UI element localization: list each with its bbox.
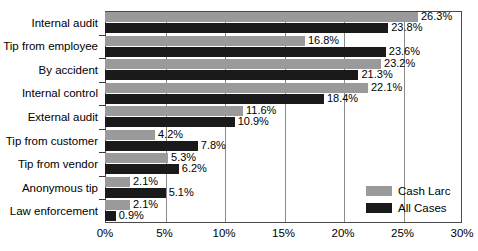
y-axis-tick xyxy=(99,82,106,83)
y-axis-tick xyxy=(99,35,106,36)
bar-group: 16.8%23.6% xyxy=(105,35,462,59)
x-tick-label: 15% xyxy=(272,227,295,239)
bar-value-label: 6.2% xyxy=(182,163,207,173)
bar-all xyxy=(105,94,324,104)
bar-cash xyxy=(105,36,305,46)
category-label: Tip from employee xyxy=(0,40,98,52)
bar-all xyxy=(105,117,235,127)
bar-all xyxy=(105,164,179,174)
category-label: External audit xyxy=(0,111,98,123)
legend-swatch xyxy=(366,203,392,213)
legend-item: All Cases xyxy=(366,200,450,215)
bar-all xyxy=(105,188,166,198)
y-axis-tick xyxy=(99,199,106,200)
legend-label: All Cases xyxy=(398,202,447,214)
legend-label: Cash Larc xyxy=(398,185,450,197)
bar-all xyxy=(105,47,386,57)
bar-value-label: 2.1% xyxy=(133,199,158,209)
bar-cash xyxy=(105,12,418,22)
bar-all xyxy=(105,23,388,33)
bar-value-label: 5.3% xyxy=(171,152,196,162)
x-tick-label: 10% xyxy=(212,227,235,239)
bar-value-label: 23.8% xyxy=(391,22,422,32)
bar-all xyxy=(105,211,116,221)
bar-all xyxy=(105,141,198,151)
bar-cash xyxy=(105,106,243,116)
bar-value-label: 5.1% xyxy=(169,187,194,197)
bar-group: 5.3%6.2% xyxy=(105,152,462,176)
bar-value-label: 10.9% xyxy=(238,116,269,126)
bar-chart: 26.3%23.8%16.8%23.6%23.2%21.3%22.1%18.4%… xyxy=(0,0,478,251)
bar-value-label: 21.3% xyxy=(361,69,392,79)
y-axis-tick xyxy=(99,176,106,177)
bar-group: 22.1%18.4% xyxy=(105,82,462,106)
y-axis-tick xyxy=(99,58,106,59)
bar-group: 4.2%7.8% xyxy=(105,129,462,153)
bar-group: 23.2%21.3% xyxy=(105,58,462,82)
bar-value-label: 23.6% xyxy=(389,46,420,56)
bar-value-label: 16.8% xyxy=(308,35,339,45)
bar-cash xyxy=(105,177,130,187)
legend-swatch xyxy=(366,186,392,196)
bar-value-label: 0.9% xyxy=(119,210,144,220)
bar-value-label: 23.2% xyxy=(384,58,415,68)
y-axis-tick xyxy=(99,105,106,106)
x-tick-label: 20% xyxy=(331,227,354,239)
category-label: Tip from customer xyxy=(0,135,98,147)
bar-cash xyxy=(105,59,381,69)
category-label: Law enforcement xyxy=(0,205,98,217)
bar-cash xyxy=(105,130,155,140)
legend-item: Cash Larc xyxy=(366,183,450,198)
bar-cash xyxy=(105,153,168,163)
category-label: Internal audit xyxy=(0,17,98,29)
bar-value-label: 22.1% xyxy=(371,82,402,92)
legend: Cash LarcAll Cases xyxy=(366,183,450,217)
category-label: By accident xyxy=(0,64,98,76)
bar-value-label: 26.3% xyxy=(421,11,452,21)
x-tick-label: 0% xyxy=(97,227,114,239)
x-tick-label: 25% xyxy=(391,227,414,239)
category-label: Tip from vendor xyxy=(0,158,98,170)
x-tick-label: 5% xyxy=(156,227,173,239)
category-label: Internal control xyxy=(0,87,98,99)
bar-value-label: 18.4% xyxy=(327,93,358,103)
bar-all xyxy=(105,70,358,80)
bar-value-label: 7.8% xyxy=(201,140,226,150)
bar-value-label: 2.1% xyxy=(133,176,158,186)
bar-group: 26.3%23.8% xyxy=(105,11,462,35)
category-label: Anonymous tip xyxy=(0,182,98,194)
bar-group: 11.6%10.9% xyxy=(105,105,462,129)
bar-value-label: 11.6% xyxy=(246,105,276,115)
y-axis-tick xyxy=(99,129,106,130)
bar-value-label: 4.2% xyxy=(158,129,183,139)
y-axis-tick xyxy=(99,152,106,153)
x-tick-label: 30% xyxy=(450,227,473,239)
